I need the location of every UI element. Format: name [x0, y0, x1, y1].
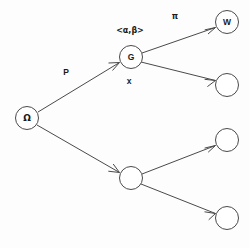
node-circle-r2: [216, 129, 239, 152]
node-label-w: W: [223, 17, 232, 27]
edge-line-b1-r3: [141, 184, 216, 214]
arrowhead-b1-r3: [205, 212, 216, 220]
annotation-group: <α,β> x P π: [63, 12, 178, 87]
node-b1[interactable]: [120, 167, 143, 190]
node-g[interactable]: G: [120, 46, 143, 69]
node-r3[interactable]: [216, 207, 239, 230]
node-label-omega: Ω: [23, 113, 31, 123]
edge-b1-to-r3[interactable]: [141, 184, 216, 220]
x-label: x: [127, 76, 132, 86]
tree-diagram-svg: Ω G W <α,: [0, 0, 250, 248]
edge-line-omega-b1: [37, 125, 120, 173]
node-w[interactable]: W: [216, 11, 239, 34]
node-label-g: G: [128, 52, 135, 62]
node-r1[interactable]: [216, 74, 239, 97]
diagram-canvas: Ω G W <α,: [0, 0, 250, 248]
edge-label-pi: π: [172, 12, 178, 21]
node-r2[interactable]: [216, 129, 239, 152]
edge-line-b1-r2: [142, 146, 216, 175]
edge-line-g-w: [142, 28, 216, 54]
pair-label-alpha-beta: <α,β>: [116, 26, 144, 35]
edge-line-g-r1: [141, 62, 216, 81]
edge-b1-to-r2[interactable]: [142, 146, 216, 175]
arrowhead-g-r1: [205, 79, 216, 86]
edge-g-to-w[interactable]: [142, 28, 216, 54]
arrowhead-omega-g: [109, 63, 120, 71]
node-group: Ω G W: [16, 11, 239, 230]
node-circle-b1: [120, 167, 143, 190]
edge-omega-to-g[interactable]: [38, 63, 120, 113]
edge-g-to-r1[interactable]: [141, 62, 216, 87]
node-circle-r1: [216, 74, 239, 97]
edge-label-p: P: [63, 67, 69, 77]
node-omega[interactable]: Ω: [16, 107, 39, 130]
edge-line-omega-g: [38, 63, 120, 113]
node-circle-r3: [216, 207, 239, 230]
edge-omega-to-b1[interactable]: [37, 125, 120, 173]
